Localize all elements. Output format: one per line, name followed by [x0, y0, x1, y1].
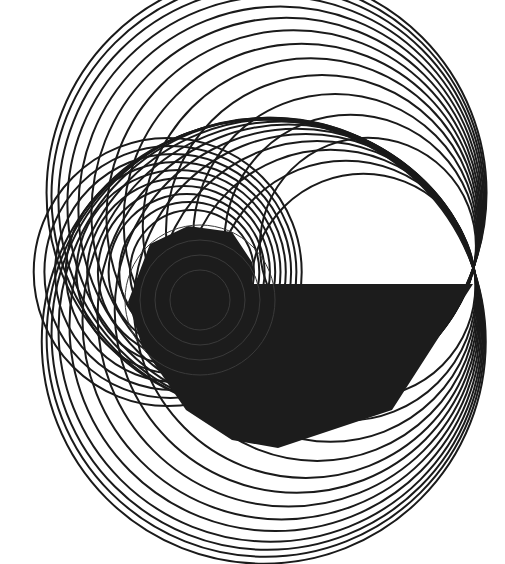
generative-artwork — [0, 0, 505, 564]
